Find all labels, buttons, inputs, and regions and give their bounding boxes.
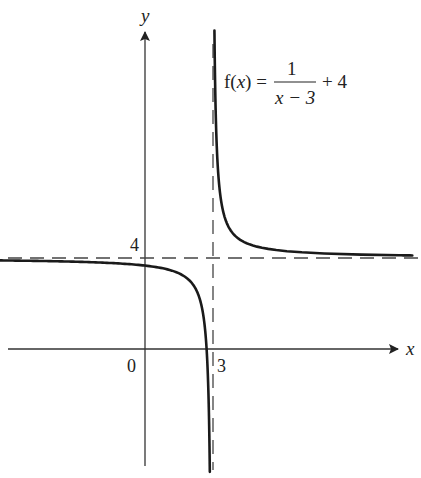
- formula-suffix: + 4: [322, 71, 347, 92]
- x-axis-label: x: [405, 338, 415, 359]
- x-tick-label-3: 3: [217, 356, 226, 376]
- function-graph: y x 0 3 4 f(x) = 1 x − 3 + 4: [0, 0, 421, 478]
- formula-lhs: f(x) =: [224, 71, 267, 93]
- origin-label: 0: [127, 356, 136, 376]
- curve-left-branch: [0, 260, 210, 471]
- curve-right-branch: [214, 31, 412, 256]
- y-axis-label: y: [139, 5, 150, 26]
- function-formula: f(x) = 1 x − 3 + 4: [224, 58, 347, 108]
- y-tick-label-4: 4: [130, 235, 139, 255]
- formula-denominator: x − 3: [274, 87, 315, 108]
- formula-numerator: 1: [287, 58, 297, 79]
